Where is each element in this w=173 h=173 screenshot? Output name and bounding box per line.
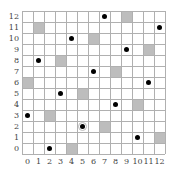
y-axis-label: 6 [2, 79, 19, 87]
grid-line-horizontal [22, 110, 165, 111]
point-marker [80, 124, 85, 129]
grid-line-horizontal [22, 99, 165, 100]
y-axis-label: 12 [2, 13, 19, 21]
y-axis-label: 3 [2, 112, 19, 120]
x-axis-label: 0 [22, 158, 33, 166]
shaded-cell [143, 44, 154, 55]
shaded-cell [22, 77, 33, 88]
grid-line-horizontal [22, 55, 165, 56]
shaded-cell [66, 143, 77, 154]
point-marker [58, 91, 63, 96]
shaded-cell [154, 132, 165, 143]
grid-line-horizontal [22, 88, 165, 89]
grid-line-horizontal [22, 66, 165, 67]
y-axis-label: 8 [2, 57, 19, 65]
grid-line-horizontal [22, 11, 165, 12]
y-axis-label: 0 [2, 145, 19, 153]
x-axis-label: 9 [121, 158, 132, 166]
x-axis-label: 12 [154, 158, 165, 166]
y-axis-label: 2 [2, 123, 19, 131]
x-axis-label: 1 [33, 158, 44, 166]
point-marker [36, 58, 41, 63]
shaded-cell [132, 99, 143, 110]
x-axis-label: 5 [77, 158, 88, 166]
point-marker [124, 47, 129, 52]
y-axis-label: 4 [2, 101, 19, 109]
x-axis-label: 10 [132, 158, 143, 166]
y-axis-label: 11 [2, 24, 19, 32]
lattice-grid [22, 11, 165, 154]
grid-line-horizontal [22, 33, 165, 34]
point-marker [146, 80, 151, 85]
point-marker [69, 36, 74, 41]
point-marker [102, 14, 107, 19]
point-marker [91, 69, 96, 74]
point-marker [157, 25, 162, 30]
grid-line-horizontal [22, 132, 165, 133]
point-marker [135, 135, 140, 140]
shaded-cell [99, 121, 110, 132]
shaded-cell [88, 33, 99, 44]
y-axis-label: 10 [2, 35, 19, 43]
point-marker [113, 102, 118, 107]
x-axis-label: 2 [44, 158, 55, 166]
grid-line-horizontal [22, 22, 165, 23]
x-axis-label: 7 [99, 158, 110, 166]
point-marker [25, 113, 30, 118]
grid-line-horizontal [22, 154, 165, 155]
x-axis-label: 3 [55, 158, 66, 166]
y-axis-label: 9 [2, 46, 19, 54]
shaded-cell [77, 88, 88, 99]
x-axis-label: 11 [143, 158, 154, 166]
y-axis-label: 7 [2, 68, 19, 76]
grid-line-horizontal [22, 143, 165, 144]
x-axis-label: 6 [88, 158, 99, 166]
x-axis-label: 8 [110, 158, 121, 166]
x-axis-label: 4 [66, 158, 77, 166]
y-axis-label: 1 [2, 134, 19, 142]
shaded-cell [121, 11, 132, 22]
grid-line-horizontal [22, 121, 165, 122]
shaded-cell [44, 110, 55, 121]
grid-line-vertical [165, 11, 166, 154]
shaded-cell [110, 66, 121, 77]
shaded-cell [55, 55, 66, 66]
y-axis-label: 5 [2, 90, 19, 98]
grid-line-horizontal [22, 44, 165, 45]
point-marker [47, 146, 52, 151]
grid-line-horizontal [22, 77, 165, 78]
shaded-cell [33, 22, 44, 33]
